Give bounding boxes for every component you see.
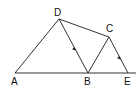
point-label-a: A	[11, 76, 18, 87]
segment-bc	[88, 37, 109, 73]
geometry-diagram: D C A B E	[0, 0, 137, 88]
point-label-e: E	[124, 76, 131, 87]
segment-ad	[15, 19, 59, 73]
parallel-arrow-db-icon	[72, 47, 76, 51]
point-label-b: B	[84, 76, 91, 87]
parallel-arrow-ce-icon	[117, 56, 121, 60]
point-label-c: C	[106, 23, 113, 34]
segment-ce	[109, 37, 128, 73]
segment-dc	[59, 19, 109, 37]
point-label-d: D	[54, 7, 61, 18]
segment-db	[59, 19, 88, 73]
